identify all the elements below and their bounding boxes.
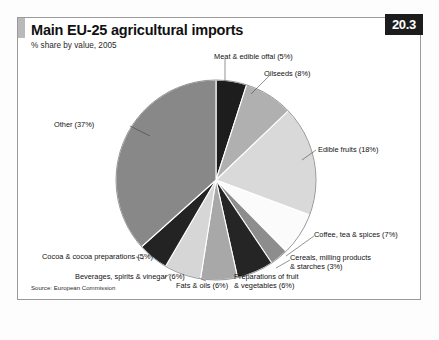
pie-label-preparations: Preparations of fruit & vegetables (6%) bbox=[234, 272, 299, 290]
pie-label-meat: Meat & edible offal (5%) bbox=[214, 52, 293, 61]
pie-label-cocoa: Cocoa & cocoa preparations (5%) bbox=[42, 252, 153, 261]
pie-label-cereals-line1: Cereals, milling products bbox=[290, 253, 371, 262]
figure-number-badge: 20.3 bbox=[385, 14, 423, 35]
pie-label-cereals-line2: & starches (3%) bbox=[290, 262, 343, 271]
chart-figure: Main EU-25 agricultural imports % share … bbox=[0, 0, 439, 340]
page-title: Main EU-25 agricultural imports bbox=[31, 22, 243, 38]
pie-label-fats-oils: Fats & oils (6%) bbox=[176, 281, 228, 290]
source-note: Source: European Commission bbox=[31, 284, 115, 291]
pie-label-cereals: Cereals, milling products & starches (3%… bbox=[290, 253, 371, 271]
pie-label-beverages: Beverages, spirits & vinegar (6%) bbox=[75, 272, 185, 281]
pie-label-preparations-line2: & vegetables (6%) bbox=[234, 281, 294, 290]
pie-label-other: Other (37%) bbox=[54, 120, 94, 129]
pie-label-edible-fruits: Edible fruits (18%) bbox=[318, 145, 378, 154]
pie-label-coffee: Coffee, tea & spices (7%) bbox=[314, 230, 398, 239]
pie-chart-plot: Meat & edible offal (5%) Oilseeds (8%) E… bbox=[18, 50, 420, 298]
chart-subtitle: % share by value, 2005 bbox=[31, 41, 117, 50]
pie-label-preparations-line1: Preparations of fruit bbox=[234, 272, 299, 281]
leader-line bbox=[276, 260, 290, 268]
pie-label-oilseeds: Oilseeds (8%) bbox=[264, 69, 310, 78]
title-accent-bar bbox=[18, 18, 25, 38]
